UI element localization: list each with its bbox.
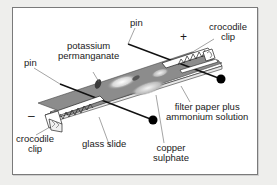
label-pin-right: pin [130,18,143,28]
left-wire-terminal [149,116,158,125]
label-copper-sulphate: copper sulphate [153,143,189,163]
negative-terminal-sign: – [28,110,35,122]
label-pin-left: pin [24,58,37,68]
label-crocodile-clip-right: crocodile clip [209,22,247,42]
label-glass-slide: glass slide [82,139,126,149]
label-crocodile-clip-left: crocodile clip [16,134,54,154]
label-potassium-permanganate: potassium permanganate [58,41,119,61]
label-filter-paper-ammonium-solution: filter paper plus ammonium solution [166,102,248,122]
right-wire-terminal [217,75,226,84]
positive-terminal-sign: + [180,31,187,43]
